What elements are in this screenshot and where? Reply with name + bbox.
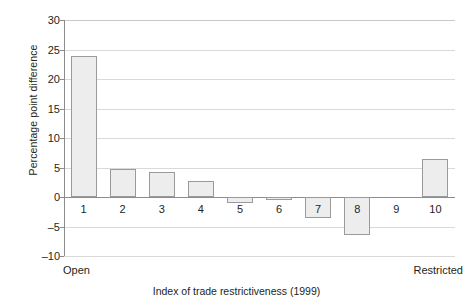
bar-6 — [266, 197, 292, 200]
y-tick-label: 15 — [48, 104, 60, 115]
y-tick-label: 20 — [48, 74, 60, 85]
bar-3 — [149, 172, 175, 197]
y-tick-label: –5 — [48, 222, 60, 233]
bar-10 — [422, 159, 448, 197]
x-tick-label-7: 7 — [299, 202, 338, 216]
x-axis-right-annotation: Restricted — [413, 264, 463, 276]
x-tick-label-10: 10 — [416, 202, 455, 216]
y-tick-mark — [60, 256, 64, 257]
bar-1 — [71, 56, 97, 197]
x-tick-label-9: 9 — [377, 202, 416, 216]
x-axis-tick-labels: 12345678910 — [64, 202, 455, 222]
bar-2 — [110, 169, 136, 197]
y-tick-label: 30 — [48, 15, 60, 26]
x-tick-label-1: 1 — [64, 202, 103, 216]
x-axis-left-annotation: Open — [63, 264, 90, 276]
x-tick-label-5: 5 — [220, 202, 259, 216]
x-tick-label-2: 2 — [103, 202, 142, 216]
x-axis-title: Index of trade restrictiveness (1999) — [0, 285, 473, 297]
bar-4 — [188, 181, 214, 197]
y-axis-tick-labels: 302520151050–5–10 — [26, 0, 60, 307]
x-tick-label-4: 4 — [181, 202, 220, 216]
gridline-neg10 — [64, 256, 455, 257]
bar-chart-figure: Percentage point difference 302520151050… — [0, 0, 473, 307]
y-tick-label: 25 — [48, 45, 60, 56]
x-tick-label-6: 6 — [260, 202, 299, 216]
y-tick-label: 10 — [48, 133, 60, 144]
y-tick-label: –10 — [42, 251, 60, 262]
x-tick-label-8: 8 — [338, 202, 377, 216]
x-tick-label-3: 3 — [142, 202, 181, 216]
